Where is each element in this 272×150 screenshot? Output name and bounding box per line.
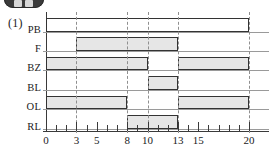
x-tick-label-8: 8: [124, 134, 130, 146]
x-tick-label-3: 3: [74, 134, 80, 146]
x-tick-11: [158, 125, 159, 131]
x-tick-10: [148, 122, 149, 131]
guide-line-13: [178, 12, 179, 133]
x-tick-label-10: 10: [142, 134, 153, 146]
x-tick-6: [107, 125, 108, 131]
x-tick-2: [66, 125, 67, 131]
signal-label-bl: BL: [27, 82, 41, 93]
x-tick-3: [76, 122, 77, 131]
x-tick-label-0: 0: [43, 134, 49, 146]
badge-segment-left: [14, 0, 22, 7]
pulse-bz-1: [178, 57, 249, 71]
guide-line-8: [127, 12, 128, 133]
x-tick-15: [198, 122, 199, 131]
signal-label-ol: OL: [27, 101, 41, 112]
x-tick-12: [168, 125, 169, 131]
x-tick-5: [97, 122, 98, 131]
badge-segment-right: [25, 0, 33, 7]
x-tick-8: [127, 122, 128, 131]
pulse-bz-0: [46, 57, 148, 71]
app-badge-cropped: [4, 0, 44, 8]
x-tick-18: [229, 125, 230, 131]
x-tick-17: [219, 125, 220, 131]
signal-label-bz: BZ: [27, 62, 41, 73]
x-tick-4: [87, 125, 88, 131]
pulse-rl-0: [127, 115, 178, 129]
guide-line-3: [76, 12, 77, 133]
x-tick-label-13: 13: [172, 134, 183, 146]
pulse-bl-0: [148, 76, 178, 90]
x-tick-20: [249, 122, 250, 131]
signal-label-pb: PB: [28, 24, 41, 35]
x-tick-label-15: 15: [193, 134, 204, 146]
x-tick-1: [56, 125, 57, 131]
x-tick-label-20: 20: [244, 134, 255, 146]
x-tick-label-5: 5: [94, 134, 100, 146]
timing-diagram-plot: PBFBZBLOLRL 035810131520: [46, 14, 249, 131]
x-tick-0: [46, 122, 47, 131]
figure-index-label: (1): [8, 16, 23, 31]
guide-line-20: [249, 12, 250, 133]
pulse-ol-0: [46, 96, 127, 110]
x-tick-14: [188, 125, 189, 131]
pulse-ol-1: [178, 96, 249, 110]
x-tick-7: [117, 125, 118, 131]
signal-label-rl: RL: [27, 121, 41, 132]
x-tick-19: [239, 125, 240, 131]
x-tick-16: [208, 125, 209, 131]
x-tick-9: [137, 125, 138, 131]
signal-label-f: F: [35, 43, 41, 54]
guide-line-10: [148, 12, 149, 133]
x-tick-13: [178, 122, 179, 131]
